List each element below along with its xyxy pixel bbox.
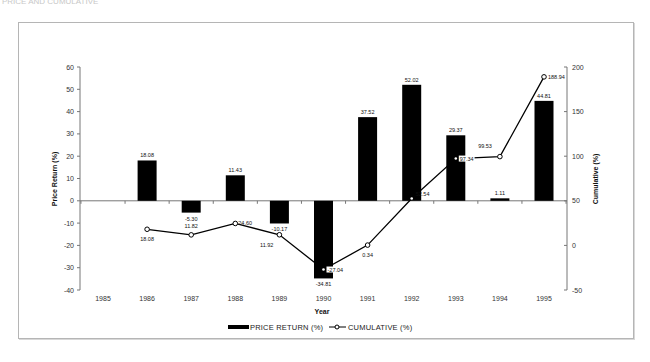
- bar-1989: [270, 201, 289, 224]
- line-label-1993: 97.34: [460, 156, 474, 162]
- x-axis-title: Year: [315, 308, 330, 315]
- line-label-1990: -27.04: [328, 267, 344, 273]
- cumulative-marker-1995: [542, 75, 547, 80]
- y-left-tick-label: 10: [66, 175, 74, 182]
- cumulative-marker-1988: [233, 221, 238, 226]
- line-label-1986: 18.08: [140, 236, 154, 242]
- y-axis-left-title: Price Return (%): [51, 152, 59, 206]
- x-tick-label: 1992: [404, 295, 420, 302]
- legend-swatch-cumulative-marker: [335, 325, 339, 329]
- cumulative-marker-1990: [322, 268, 325, 271]
- y-left-tick-label: 60: [66, 64, 74, 71]
- bar-label-1986: 18.08: [140, 152, 154, 158]
- bar-label-1994: 1.11: [495, 190, 505, 196]
- bar-1987: [182, 201, 201, 213]
- y-left-tick-label: 20: [66, 153, 74, 160]
- bar-label-1993: 29.37: [449, 127, 463, 133]
- x-tick-label: 1995: [536, 295, 552, 302]
- data-labels: 18.08-5.3011.43-10.17-34.8137.5252.0229.…: [140, 74, 565, 288]
- cumulative-line: [147, 77, 544, 270]
- bar-1988: [226, 175, 245, 200]
- line-label-1987: 11.82: [185, 223, 198, 229]
- bar-1992: [402, 85, 421, 201]
- bar-1995: [535, 101, 554, 201]
- x-tick-label: 1988: [228, 295, 244, 302]
- bar-label-1990: -34.81: [316, 281, 332, 287]
- legend-label-cumulative: CUMULATIVE (%): [348, 323, 413, 332]
- combo-chart: 6050403020100-10-20-30-40200150100500-50…: [0, 0, 650, 362]
- cumulative-marker-1987: [189, 233, 194, 238]
- y-left-tick-label: -10: [64, 220, 74, 227]
- cumulative-marker-1989: [277, 232, 282, 237]
- line-label-1989: 11.92: [260, 242, 273, 248]
- y-left-tick-label: -40: [64, 287, 74, 294]
- line-label-1995: 188.94: [548, 74, 565, 80]
- bar-label-1987: -5.30: [185, 216, 198, 222]
- x-tick-label: 1990: [316, 295, 332, 302]
- y-right-tick-label: 0: [572, 242, 576, 249]
- x-tick-label: 1993: [448, 295, 464, 302]
- legend-swatch-price-return: [228, 325, 249, 329]
- bar-label-1989: -10.17: [272, 226, 288, 232]
- y-right-tick-label: -50: [572, 287, 582, 294]
- y-left-tick-label: -30: [64, 264, 74, 271]
- bar-label-1995: 44.81: [537, 93, 551, 99]
- y-axis-right-title: Cumulative (%): [592, 154, 600, 205]
- cumulative-marker-1986: [145, 227, 150, 232]
- cumulative-marker-1992: [410, 197, 413, 200]
- line-label-1994: 99.53: [478, 143, 492, 149]
- x-tick-label: 1986: [139, 295, 155, 302]
- y-right-tick-label: 150: [572, 108, 584, 115]
- y-left-tick-label: 40: [66, 108, 74, 115]
- y-left-tick-label: 50: [66, 86, 74, 93]
- x-tick-label: 1989: [272, 295, 288, 302]
- line-series: [145, 75, 547, 271]
- y-left-tick-label: 0: [70, 197, 74, 204]
- bar-label-1991: 37.52: [361, 109, 375, 115]
- bar-series: [138, 85, 554, 279]
- legend-label-price-return: PRICE RETURN (%): [250, 323, 324, 332]
- y-right-tick-label: 100: [572, 153, 584, 160]
- y-right-tick-label: 50: [572, 197, 580, 204]
- x-tick-label: 1994: [492, 295, 508, 302]
- bar-1993: [446, 135, 465, 200]
- cumulative-marker-1993: [455, 157, 458, 160]
- y-left-tick-label: -20: [64, 242, 74, 249]
- y-right-tick-label: 200: [572, 64, 584, 71]
- legend: PRICE RETURN (%) CUMULATIVE (%): [228, 323, 413, 332]
- y-left-tick-label: 30: [66, 130, 74, 137]
- bar-1986: [138, 160, 157, 200]
- line-label-1988: 24.60: [238, 220, 252, 226]
- x-tick-label: 1985: [95, 295, 111, 302]
- bar-1991: [358, 117, 377, 201]
- bar-label-1992: 52.02: [405, 77, 419, 83]
- bar-1994: [490, 198, 509, 200]
- x-tick-label: 1987: [183, 295, 199, 302]
- line-label-1992: 52.54: [416, 191, 430, 197]
- cumulative-marker-1994: [498, 154, 503, 159]
- bar-label-1988: 11.43: [229, 167, 242, 173]
- x-tick-label: 1991: [360, 295, 376, 302]
- cumulative-marker-1991: [365, 243, 370, 248]
- line-label-1991: 0.34: [362, 252, 373, 258]
